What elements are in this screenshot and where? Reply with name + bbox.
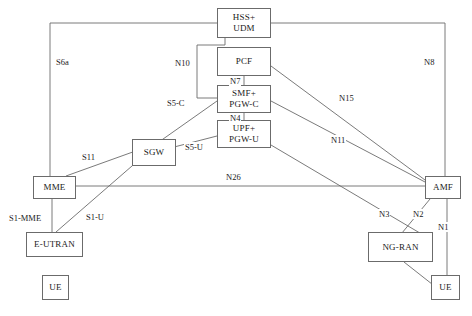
node-amf[interactable]: AMF <box>425 176 461 199</box>
node-eutran[interactable]: E-UTRAN <box>26 232 83 257</box>
edge-label-s1mme: S1-MME <box>8 213 42 223</box>
edge-label-n2: N2 <box>412 209 424 219</box>
node-label-secondary: PGW-U <box>229 134 259 145</box>
node-label-secondary: UDM <box>233 23 255 34</box>
edge-label-s5u: S5-U <box>184 142 204 152</box>
node-mme[interactable]: MME <box>33 176 76 199</box>
edge-n15 <box>271 66 425 180</box>
edge-n11 <box>271 101 425 182</box>
node-label: UE <box>49 282 61 293</box>
node-ue_right[interactable]: UE <box>431 275 460 300</box>
node-label: SGW <box>144 147 165 158</box>
node-pcf[interactable]: PCF <box>217 47 271 76</box>
node-hss_udm[interactable]: HSS+UDM <box>217 8 271 38</box>
node-upf_pgwu[interactable]: UPF+PGW-U <box>217 120 271 148</box>
edge-label-n15: N15 <box>338 93 355 103</box>
edge-label-n8: N8 <box>423 57 435 67</box>
edge-label-s1u: S1-U <box>85 212 105 222</box>
node-label: SMF+ <box>232 88 256 99</box>
node-label-secondary: PGW-C <box>229 99 259 110</box>
edge-label-n1: N1 <box>437 222 449 232</box>
edge-label-n26: N26 <box>225 172 242 182</box>
edge-label-s11: S11 <box>81 152 96 162</box>
edge-label-n10: N10 <box>174 58 191 68</box>
node-sgw[interactable]: SGW <box>132 139 176 166</box>
node-label: UE <box>439 282 451 293</box>
node-ue_left[interactable]: UE <box>42 275 69 300</box>
node-ngran[interactable]: NG-RAN <box>368 232 433 262</box>
node-label: MME <box>43 182 65 193</box>
edge-n8 <box>271 23 445 176</box>
node-label: UPF+ <box>233 123 255 134</box>
node-smf_pgwc[interactable]: SMF+PGW-C <box>217 85 271 113</box>
network-architecture-diagram: HSS+UDMPCFSMF+PGW-CUPF+PGW-USGWMMEE-UTRA… <box>0 0 472 316</box>
node-label: HSS+ <box>233 12 255 23</box>
edge-label-n11: N11 <box>330 135 346 145</box>
edge-label-n7: N7 <box>229 76 241 86</box>
edge-label-n4: N4 <box>229 113 241 123</box>
node-label: AMF <box>433 182 453 193</box>
edge-label-s6a: S6a <box>55 57 70 67</box>
node-label: NG-RAN <box>382 242 418 253</box>
node-label: E-UTRAN <box>34 239 75 250</box>
node-label: PCF <box>236 56 253 67</box>
edge-label-n3: N3 <box>378 209 390 219</box>
edge-label-s5c: S5-C <box>166 98 185 108</box>
edge-n3 <box>271 145 430 239</box>
